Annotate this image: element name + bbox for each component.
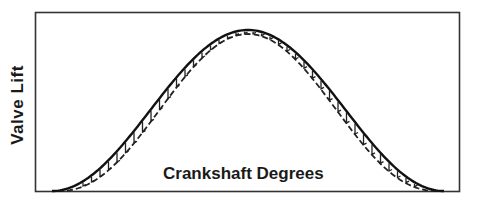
valve-lift-diagram: Valve Lift Crankshaft Degrees	[0, 0, 477, 209]
x-axis-label: Crankshaft Degrees	[163, 164, 324, 184]
y-axis-label: Valve Lift	[3, 0, 33, 209]
y-axis-label-text: Valve Lift	[8, 65, 28, 145]
